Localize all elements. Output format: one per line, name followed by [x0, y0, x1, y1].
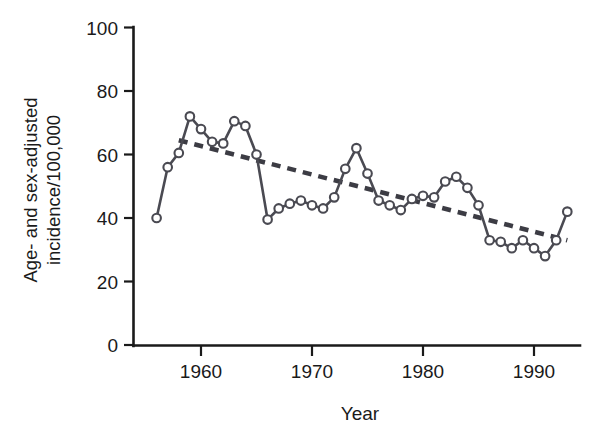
- x-tick-label-1980: 1980: [402, 361, 444, 382]
- data-point: [175, 149, 184, 158]
- chart-figure: Age- and sex-adjusted incidence/100,000 …: [0, 0, 601, 435]
- data-point: [263, 215, 272, 224]
- y-axis-title-line1: Age- and sex-adjusted: [20, 97, 41, 282]
- data-point: [530, 244, 539, 253]
- data-point: [474, 201, 483, 210]
- y-axis: 100 80 60 40 20 0: [86, 18, 133, 356]
- data-point: [552, 236, 561, 245]
- series-line-incidence: [157, 116, 568, 256]
- y-axis-title-line2: incidence/100,000: [43, 115, 64, 265]
- data-point: [274, 204, 283, 213]
- data-point: [441, 177, 450, 186]
- data-point: [286, 199, 295, 208]
- data-point: [408, 195, 417, 204]
- data-point: [563, 207, 572, 216]
- data-point: [152, 214, 161, 223]
- data-point: [186, 112, 195, 121]
- data-point: [541, 252, 550, 261]
- y-tick-label-20: 20: [97, 272, 118, 293]
- data-point: [363, 169, 372, 178]
- data-point: [252, 150, 261, 159]
- data-point: [485, 236, 494, 245]
- data-point: [308, 201, 317, 210]
- data-point: [319, 204, 328, 213]
- data-point: [397, 206, 406, 215]
- data-point: [330, 193, 339, 202]
- x-tick-label-1990: 1990: [513, 361, 555, 382]
- data-point: [241, 122, 250, 131]
- y-tick-label-60: 60: [97, 145, 118, 166]
- x-tick-label-1970: 1970: [291, 361, 333, 382]
- y-tick-label-0: 0: [107, 335, 118, 356]
- incidence-line-chart: Age- and sex-adjusted incidence/100,000 …: [0, 0, 601, 435]
- data-point: [230, 117, 239, 126]
- x-axis: 1960 1970 1980 1990: [134, 346, 581, 383]
- data-point: [385, 201, 394, 210]
- y-tick-label-100: 100: [86, 18, 118, 39]
- data-point: [452, 172, 461, 181]
- data-point: [419, 191, 428, 200]
- data-point: [463, 184, 472, 193]
- data-point: [219, 139, 228, 148]
- data-point: [519, 236, 528, 245]
- data-point: [208, 138, 217, 147]
- y-tick-label-40: 40: [97, 208, 118, 229]
- data-point: [197, 125, 206, 134]
- data-point: [430, 193, 439, 202]
- data-point: [163, 163, 172, 172]
- data-point: [496, 238, 505, 247]
- data-point: [297, 196, 306, 205]
- data-point: [374, 196, 383, 205]
- data-point: [341, 164, 350, 173]
- x-axis-title: Year: [341, 403, 380, 424]
- data-point: [508, 244, 517, 253]
- y-axis-title: Age- and sex-adjusted incidence/100,000: [20, 97, 64, 282]
- series-markers: [152, 112, 571, 260]
- data-point: [352, 144, 361, 153]
- x-tick-label-1960: 1960: [180, 361, 222, 382]
- y-tick-label-80: 80: [97, 81, 118, 102]
